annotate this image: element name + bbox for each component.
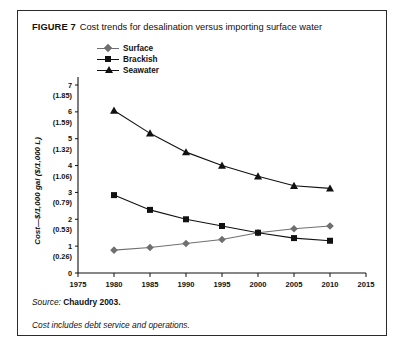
triangle-marker-icon bbox=[97, 65, 119, 76]
legend-label-seawater: Seawater bbox=[119, 66, 159, 75]
triangle-marker-icon bbox=[146, 129, 154, 136]
y-tick-label-metric: (1.32) bbox=[53, 145, 73, 154]
x-tick-label: 2005 bbox=[286, 280, 304, 289]
square-marker-icon bbox=[147, 207, 153, 213]
diamond-marker-icon bbox=[97, 43, 119, 54]
x-tick-label: 1975 bbox=[70, 280, 88, 289]
x-tick-label: 1980 bbox=[106, 280, 123, 289]
data-point-seawater-1985 bbox=[146, 129, 154, 136]
figure-title: Cost trends for desalination versus impo… bbox=[76, 22, 322, 32]
source-note: Source: Chaudry 2003. bbox=[32, 297, 372, 307]
square-marker-icon bbox=[183, 216, 189, 222]
data-point-brackish-1980 bbox=[111, 192, 117, 198]
y-tick-label: 1 bbox=[68, 242, 72, 251]
triangle-marker-icon bbox=[182, 148, 190, 155]
y-tick-label: 3 bbox=[68, 188, 72, 197]
x-tick-label: 2010 bbox=[322, 280, 339, 289]
diamond-marker-icon bbox=[326, 222, 334, 230]
diamond-marker-icon bbox=[290, 225, 298, 233]
cost-trends-line-chart: 01(0.26)2(0.53)3(0.79)4(1.06)5(1.32)6(1.… bbox=[18, 39, 386, 289]
chart-plot-area: 01(0.26)2(0.53)3(0.79)4(1.06)5(1.32)6(1.… bbox=[18, 39, 386, 289]
square-marker-icon bbox=[111, 192, 117, 198]
y-tick-label: 5 bbox=[68, 134, 72, 143]
y-axis-title: Cost—$/1,000 gal ($/1,000 L) bbox=[33, 137, 42, 245]
x-tick-label: 2000 bbox=[250, 280, 267, 289]
source-note-lead: Source: bbox=[32, 297, 61, 307]
data-point-surface-2005 bbox=[290, 225, 298, 233]
square-marker-icon bbox=[219, 223, 225, 229]
square-marker-icon bbox=[255, 230, 261, 236]
chart-legend: Surface Brackish Seawater bbox=[97, 43, 183, 76]
diamond-marker-icon bbox=[110, 246, 118, 254]
y-tick-label-metric: (0.53) bbox=[53, 225, 73, 234]
data-point-surface-2010 bbox=[326, 222, 334, 230]
y-tick-label: 0 bbox=[68, 269, 72, 278]
data-point-brackish-2010 bbox=[327, 238, 333, 244]
data-point-brackish-2005 bbox=[291, 235, 297, 241]
data-point-seawater-1995 bbox=[218, 162, 226, 169]
y-tick-label-metric: (1.85) bbox=[53, 91, 73, 100]
data-point-brackish-1985 bbox=[147, 207, 153, 213]
y-tick-label: 7 bbox=[68, 81, 72, 90]
square-marker-icon bbox=[97, 54, 119, 65]
data-point-brackish-2000 bbox=[255, 230, 261, 236]
legend-item-seawater: Seawater bbox=[97, 65, 183, 76]
diamond-marker-icon bbox=[182, 240, 190, 248]
legend-item-surface: Surface bbox=[97, 43, 183, 54]
x-tick-label: 1990 bbox=[178, 280, 195, 289]
data-point-surface-1985 bbox=[146, 244, 154, 252]
y-tick-label-metric: (1.59) bbox=[53, 118, 73, 127]
x-tick-label: 1985 bbox=[142, 280, 160, 289]
x-tick-label: 2015 bbox=[358, 280, 376, 289]
square-marker-icon bbox=[291, 235, 297, 241]
data-point-surface-1990 bbox=[182, 240, 190, 248]
data-point-surface-1995 bbox=[218, 236, 226, 244]
data-point-brackish-1990 bbox=[183, 216, 189, 222]
figure-caption: FIGURE 7Cost trends for desalination ver… bbox=[32, 21, 378, 33]
y-tick-label: 4 bbox=[68, 161, 73, 170]
diamond-marker-icon bbox=[146, 244, 154, 252]
y-tick-label-metric: (0.26) bbox=[53, 252, 73, 261]
data-point-seawater-1990 bbox=[182, 148, 190, 155]
data-point-brackish-1995 bbox=[219, 223, 225, 229]
square-marker-icon bbox=[327, 238, 333, 244]
triangle-marker-icon bbox=[218, 162, 226, 169]
x-tick-label: 1995 bbox=[214, 280, 232, 289]
figure-label: FIGURE 7 bbox=[32, 22, 76, 32]
y-tick-label: 2 bbox=[68, 215, 72, 224]
legend-label-surface: Surface bbox=[119, 44, 153, 53]
data-point-surface-1980 bbox=[110, 246, 118, 254]
y-tick-label-metric: (0.79) bbox=[53, 198, 73, 207]
data-point-seawater-1980 bbox=[110, 107, 118, 114]
cost-note: Cost includes debt service and operation… bbox=[32, 320, 372, 330]
series-line-brackish bbox=[114, 195, 330, 241]
y-tick-label: 6 bbox=[68, 107, 72, 116]
series-line-seawater bbox=[114, 111, 330, 189]
legend-item-brackish: Brackish bbox=[97, 54, 183, 65]
legend-label-brackish: Brackish bbox=[119, 55, 158, 64]
source-note-value: Chaudry 2003. bbox=[61, 297, 121, 307]
figure-panel: FIGURE 7Cost trends for desalination ver… bbox=[17, 10, 387, 336]
figure-notes: Source: Chaudry 2003. Cost includes debt… bbox=[32, 297, 372, 343]
y-tick-label-metric: (1.06) bbox=[53, 172, 73, 181]
cost-note-text: Cost includes debt service and operation… bbox=[32, 320, 190, 330]
triangle-marker-icon bbox=[110, 107, 118, 114]
diamond-marker-icon bbox=[218, 236, 226, 244]
